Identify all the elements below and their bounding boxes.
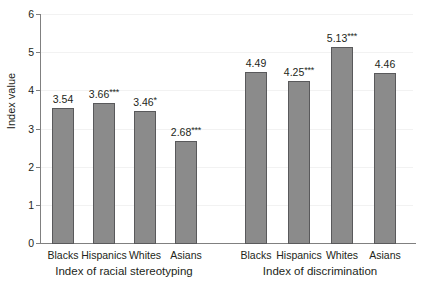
bar-stereotyping-whites	[134, 111, 156, 244]
bar-label-text: 4.25***	[284, 66, 314, 78]
category-label-stereotyping-asians: Asians	[170, 249, 202, 261]
y-tick-3	[36, 129, 40, 130]
bar-label-discrimination-whites: 5.13***	[327, 32, 357, 44]
y-tick-5	[36, 52, 40, 53]
category-label-discrimination-asians: Asians	[369, 249, 401, 261]
y-tick-0	[36, 243, 40, 244]
bar-stereotyping-asians	[175, 141, 197, 244]
bar-label-discrimination-blacks: 4.49	[246, 57, 266, 69]
y-tick-6	[36, 14, 40, 15]
significance-marker: *	[154, 95, 157, 105]
y-axis-line	[40, 14, 41, 243]
bar-discrimination-hispanics	[288, 81, 310, 244]
significance-marker: ***	[109, 87, 119, 97]
y-tick-label-0: 0	[4, 237, 34, 249]
group-title-discrimination: Index of discrimination	[263, 265, 377, 277]
y-tick-1	[36, 205, 40, 206]
significance-marker: ***	[304, 65, 314, 75]
y-tick-4	[36, 90, 40, 91]
bar-stereotyping-hispanics	[93, 103, 115, 244]
bar-label-text: 3.54	[53, 93, 73, 105]
bar-discrimination-asians	[374, 73, 396, 244]
bar-label-stereotyping-blacks: 3.54	[53, 93, 73, 105]
category-label-discrimination-blacks: Blacks	[241, 249, 272, 261]
bar-label-stereotyping-hispanics: 3.66***	[89, 88, 119, 100]
y-tick-label-1: 1	[4, 199, 34, 211]
bar-label-text: 5.13***	[327, 32, 357, 44]
significance-marker: ***	[347, 31, 357, 41]
bar-label-text: 4.46	[375, 58, 395, 70]
bar-label-text: 4.49	[246, 57, 266, 69]
bar-label-stereotyping-asians: 2.68***	[171, 126, 201, 138]
category-label-discrimination-whites: Whites	[326, 249, 358, 261]
y-tick-2	[36, 167, 40, 168]
category-label-discrimination-hispanics: Hispanics	[276, 249, 322, 261]
y-axis-title: Index value	[5, 26, 17, 176]
bar-label-discrimination-hispanics: 4.25***	[284, 66, 314, 78]
bar-label-discrimination-asians: 4.46	[375, 58, 395, 70]
gridline-6	[40, 14, 413, 15]
category-label-stereotyping-blacks: Blacks	[48, 249, 79, 261]
bar-label-text: 3.46*	[133, 96, 157, 108]
bar-label-text: 2.68***	[171, 126, 201, 138]
significance-marker: ***	[191, 125, 201, 135]
bar-label-stereotyping-whites: 3.46*	[133, 96, 157, 108]
category-label-stereotyping-hispanics: Hispanics	[81, 249, 127, 261]
bar-label-text: 3.66***	[89, 88, 119, 100]
bar-discrimination-whites	[331, 47, 353, 244]
group-title-stereotyping: Index of racial stereotyping	[55, 265, 192, 277]
bar-discrimination-blacks	[245, 72, 267, 244]
bar-stereotyping-blacks	[52, 108, 74, 244]
y-tick-label-6: 6	[4, 8, 34, 20]
category-label-stereotyping-whites: Whites	[129, 249, 161, 261]
gridline-5	[40, 52, 413, 53]
bar-chart: 6 5 4 3 2 1 0 Index value 3.54 3.66*** 3…	[0, 0, 421, 286]
